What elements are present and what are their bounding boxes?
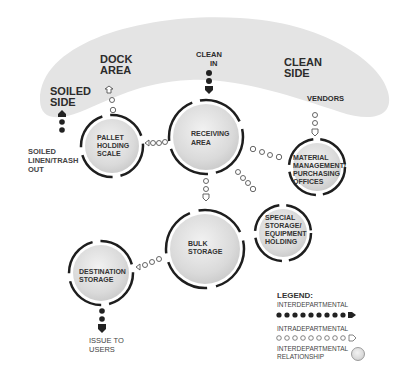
- svg-text:INTRADEPARTMENTAL: INTRADEPARTMENTAL: [277, 325, 349, 332]
- intradepartmental-flow-receiving-material: [250, 146, 281, 159]
- svg-text:LEGEND:: LEGEND:: [277, 291, 313, 300]
- zone-dock-area: DOCKAREA: [100, 53, 132, 76]
- legend-intradepartmental-dots: [277, 335, 356, 341]
- node-pallet-holding-scale: PALLETHOLDINGSCALE: [81, 115, 143, 177]
- receiving-flow-diagram: SOILEDSIDE DOCKAREA CLEANSIDE CLEANIN VE…: [0, 0, 403, 374]
- intradepartmental-flow-bulk-destination: [136, 257, 162, 271]
- legend-interdepartmental-dots: [276, 312, 356, 318]
- label-vendors: VENDORS: [307, 94, 344, 103]
- legend-relationship-icon: [352, 348, 365, 361]
- intradepartmental-flow-receiving-pallet: [145, 140, 168, 147]
- node-receiving-area: RECEIVINGAREA: [169, 100, 243, 174]
- node-special-storage: SPECIALSTORAGE/EQUIPMENTHOLDING: [255, 205, 311, 261]
- interdepartmental-flow-soiled-out: [58, 110, 66, 133]
- legend: LEGEND: INTERDEPARTMENTAL INTRADEPARTMEN…: [276, 291, 364, 361]
- svg-text:INTERDEPARTMENTAL: INTERDEPARTMENTAL: [277, 301, 349, 308]
- label-issue-to-users: ISSUE TOUSERS: [89, 336, 124, 354]
- node-material-management: MATERIALMANAGEMENT/PURCHASINGOFFICES: [289, 139, 346, 195]
- intradepartmental-flow-receiving-bulk: [203, 179, 209, 202]
- svg-text:INTERDEPARTMENTALRELATIONSHIP: INTERDEPARTMENTALRELATIONSHIP: [277, 345, 349, 360]
- interdepartmental-flow-clean-in: [205, 70, 213, 94]
- intradepartmental-flow-vendors: [312, 113, 318, 137]
- label-soiled-out: SOILEDLINEN/TRASHOUT: [28, 147, 78, 174]
- node-bulk-storage: BULKSTORAGE: [166, 210, 244, 288]
- intradepartmental-flow-receiving-special: [236, 170, 256, 192]
- node-destination-storage: DESTINATIONSTORAGE: [69, 241, 133, 305]
- interdepartmental-flow-issue: [98, 308, 106, 333]
